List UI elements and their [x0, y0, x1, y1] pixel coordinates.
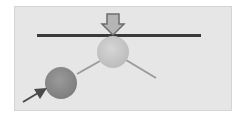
upper-ball — [97, 36, 129, 68]
connector-line-left — [77, 61, 100, 74]
connector-line-right — [126, 60, 156, 78]
down-arrow-icon — [102, 14, 124, 35]
horizontal-bar — [37, 34, 201, 37]
diagram-canvas — [0, 0, 246, 120]
lower-ball — [45, 67, 77, 99]
diagonal-arrow-shaft — [23, 93, 38, 102]
